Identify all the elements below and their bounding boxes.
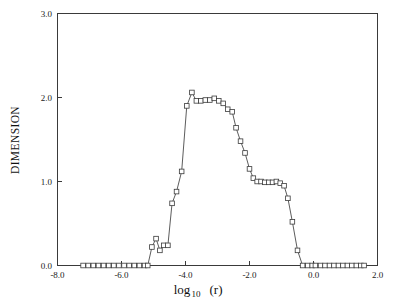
y-tick-label: 2.0 [41, 93, 53, 103]
data-point-marker [362, 263, 367, 268]
data-point-marker [208, 98, 213, 103]
data-point-marker [290, 220, 295, 225]
x-tick-label: -6.0 [114, 270, 129, 280]
data-point-marker [212, 96, 217, 101]
data-point-marker [327, 263, 332, 268]
data-point-marker [282, 183, 287, 188]
data-point-marker [194, 99, 199, 104]
data-point-marker [203, 98, 208, 103]
data-point-marker [341, 263, 346, 268]
data-point-marker [86, 263, 91, 268]
data-point-marker [323, 263, 328, 268]
data-point-marker [158, 248, 163, 253]
data-point-marker [247, 167, 252, 172]
data-point-marker [154, 236, 159, 241]
data-point-marker [184, 104, 189, 109]
data-point-marker [234, 125, 239, 130]
data-point-marker [336, 263, 341, 268]
data-point-marker [225, 107, 230, 112]
data-point-marker [106, 263, 111, 268]
data-point-marker [137, 263, 142, 268]
data-point-marker [199, 99, 204, 104]
data-point-marker [318, 263, 323, 268]
data-point-marker [132, 263, 137, 268]
x-axis-title-subscript: 10 [192, 289, 202, 299]
x-axis-title-main: log [174, 282, 191, 297]
data-point-marker [145, 263, 150, 268]
data-point-marker [81, 263, 86, 268]
data-point-marker [354, 263, 359, 268]
x-tick-label: -4.0 [178, 270, 193, 280]
data-point-marker [345, 263, 350, 268]
data-point-marker [122, 263, 127, 268]
data-point-marker [91, 263, 96, 268]
x-tick-label: -2.0 [242, 270, 257, 280]
x-tick-label: 0.0 [308, 270, 320, 280]
data-point-marker [332, 263, 337, 268]
data-point-marker [101, 263, 106, 268]
y-tick-label: 3.0 [41, 9, 53, 19]
data-point-marker [112, 263, 117, 268]
data-line-dimension [83, 92, 364, 265]
data-point-marker [166, 243, 171, 248]
data-point-marker [174, 189, 179, 194]
data-point-marker [305, 263, 310, 268]
data-point-marker [170, 201, 175, 206]
data-point-marker [295, 248, 300, 253]
y-axis-title: DIMENSION [9, 106, 21, 174]
x-axis-title-tail: (r) [210, 282, 223, 297]
data-point-marker [238, 139, 243, 144]
data-point-marker [286, 196, 291, 201]
x-tick-label: 2.0 [372, 270, 384, 280]
data-point-marker [127, 263, 132, 268]
data-point-marker [243, 151, 248, 156]
data-point-marker [190, 90, 195, 95]
data-point-marker [117, 263, 122, 268]
data-point-marker [216, 99, 221, 104]
data-point-marker [300, 263, 305, 268]
x-tick-label: -8.0 [50, 270, 65, 280]
data-point-marker [350, 263, 355, 268]
axes-frame [58, 14, 378, 266]
data-point-marker [313, 263, 318, 268]
data-point-marker [179, 169, 184, 174]
data-point-marker [150, 245, 155, 250]
data-point-marker [96, 263, 101, 268]
data-point-marker [230, 109, 235, 114]
data-point-marker [221, 101, 226, 106]
chart-figure: -8.0-6.0-4.0-2.00.02.00.01.02.03.0DIMENS… [0, 0, 399, 306]
y-tick-label: 0.0 [41, 261, 53, 271]
x-axis-title: log10(r) [174, 282, 223, 299]
y-tick-label: 1.0 [41, 177, 53, 187]
chart-plot-area: -8.0-6.0-4.0-2.00.02.00.01.02.03.0DIMENS… [0, 0, 399, 306]
